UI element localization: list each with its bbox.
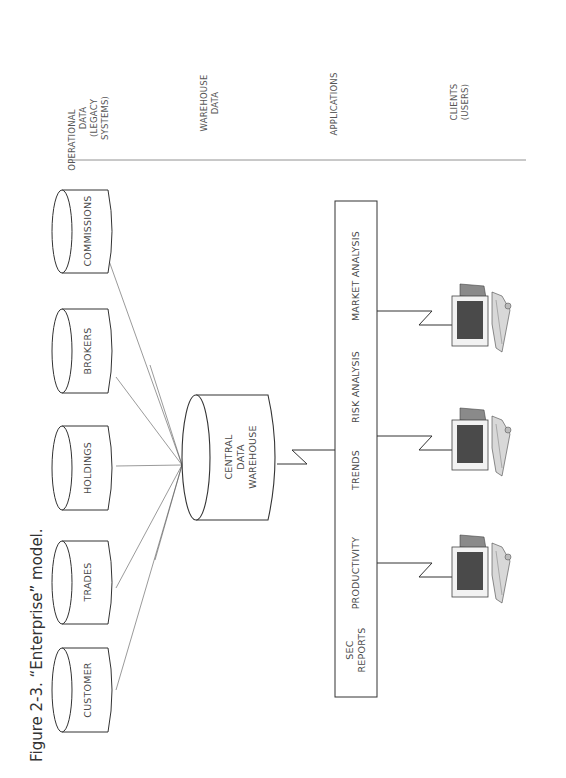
source-connectors (108, 258, 182, 690)
svg-text:CLIENTS: CLIENTS (449, 84, 459, 121)
svg-text:RISK ANALYSIS: RISK ANALYSIS (350, 351, 361, 423)
svg-text:HOLDINGS: HOLDINGS (82, 442, 93, 494)
svg-text:COMMISSIONS: COMMISSIONS (82, 196, 93, 267)
svg-text:(USERS): (USERS) (460, 84, 470, 120)
svg-text:WAREHOUSE: WAREHOUSE (247, 425, 258, 488)
svg-text:SEC: SEC (344, 640, 355, 659)
source-cylinder-customer: CUSTOMER (52, 648, 112, 732)
svg-text:DATA: DATA (210, 92, 220, 115)
svg-text:PRODUCTIVITY: PRODUCTIVITY (350, 537, 361, 610)
svg-text:DATA: DATA (235, 444, 246, 470)
network-link-warehouse (277, 450, 335, 464)
svg-text:TRADES: TRADES (82, 562, 93, 602)
svg-text:OPERATIONAL: OPERATIONAL (67, 109, 77, 170)
enterprise-model-diagram: OPERATIONAL DATA (LEGACY SYSTEMS) WAREHO… (0, 0, 566, 778)
network-link-client-1 (377, 311, 452, 325)
computer-workstation-icon (452, 408, 511, 476)
column-header-clients: CLIENTS (USERS) (449, 84, 470, 121)
source-cylinder-trades: TRADES (52, 541, 112, 624)
svg-text:DATA: DATA (78, 107, 88, 130)
computer-workstation-icon (452, 284, 511, 352)
network-link-client-3 (377, 563, 452, 577)
svg-text:MARKET ANALYSIS: MARKET ANALYSIS (350, 231, 361, 321)
svg-text:TRENDS: TRENDS (350, 450, 361, 491)
column-header-warehouse: WAREHOUSE DATA (199, 75, 220, 132)
figure-caption: Figure 2-3. “Enterprise” model. (28, 528, 46, 762)
svg-text:BROKERS: BROKERS (82, 328, 93, 375)
network-link-client-2 (377, 436, 452, 450)
column-header-applications: APPLICATIONS (329, 73, 339, 136)
svg-text:WAREHOUSE: WAREHOUSE (199, 75, 209, 132)
source-cylinder-brokers: BROKERS (52, 309, 112, 393)
svg-text:REPORTS: REPORTS (356, 628, 367, 673)
source-cylinder-holdings: HOLDINGS (52, 426, 112, 510)
svg-text:SYSTEMS): SYSTEMS) (100, 96, 110, 140)
column-header-operational: OPERATIONAL DATA (LEGACY SYSTEMS) (67, 96, 110, 171)
svg-text:APPLICATIONS: APPLICATIONS (329, 73, 339, 136)
computer-workstation-icon (452, 535, 511, 603)
source-cylinder-commissions: COMMISSIONS (52, 190, 112, 273)
svg-text:CENTRAL: CENTRAL (223, 434, 234, 479)
applications-box: MARKET ANALYSIS RISK ANALYSIS TRENDS PRO… (335, 201, 377, 697)
svg-text:(LEGACY: (LEGACY (89, 98, 99, 137)
central-data-warehouse-cylinder: CENTRAL DATA WAREHOUSE (182, 395, 275, 520)
svg-text:CUSTOMER: CUSTOMER (82, 662, 93, 717)
